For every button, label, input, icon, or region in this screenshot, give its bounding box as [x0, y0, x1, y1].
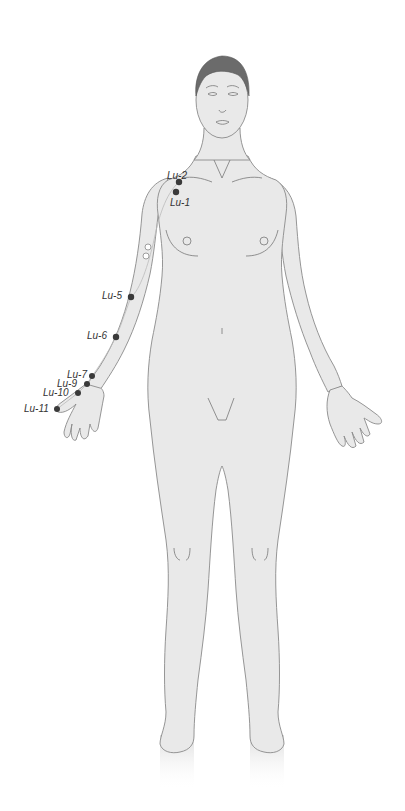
acupoint-lu-9[interactable] [84, 381, 90, 387]
label-lu-1: Lu-1 [170, 198, 190, 208]
hollow-point [145, 244, 151, 250]
acupoint-lu-1[interactable] [173, 189, 179, 195]
acupoint-lu-11[interactable] [54, 406, 60, 412]
label-lu-2: Lu-2 [167, 171, 187, 181]
acupoint-lu-5[interactable] [128, 294, 134, 300]
hand-left [327, 386, 382, 448]
body-figure [0, 0, 405, 811]
label-lu-6: Lu-6 [87, 331, 107, 341]
hollow-point [143, 253, 149, 259]
acupoint-lu-6[interactable] [113, 334, 119, 340]
label-lu-5: Lu-5 [102, 291, 122, 301]
label-lu-10: Lu-10 [43, 388, 69, 398]
torso [148, 156, 296, 753]
acupoint-lu-7[interactable] [89, 373, 95, 379]
label-lu-11: Lu-11 [24, 404, 49, 414]
acupoint-lu-10[interactable] [75, 390, 81, 396]
